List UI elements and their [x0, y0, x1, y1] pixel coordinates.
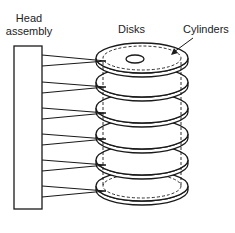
disk-diagram — [0, 0, 235, 233]
cylinders-arrow — [174, 38, 193, 52]
head-assembly-box — [14, 46, 42, 209]
head-arms — [42, 55, 106, 197]
disk-stack — [96, 43, 188, 205]
spindle-hole — [126, 55, 144, 63]
disk-1 — [96, 43, 188, 77]
